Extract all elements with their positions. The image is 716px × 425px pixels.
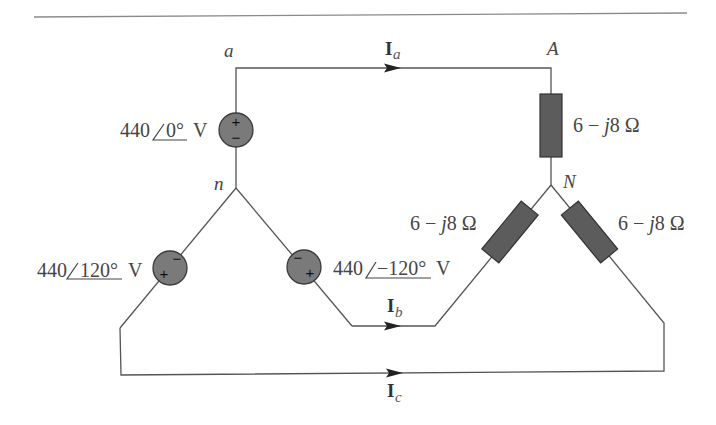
load-A-impedance-label: 6−j8Ω xyxy=(573,114,640,137)
line-a-wire xyxy=(236,68,551,188)
source-c-magnitude: 440 xyxy=(37,259,67,281)
source-c-unit: V xyxy=(128,259,143,281)
source-c-plus: + xyxy=(160,265,169,282)
voltage-source-b-icon xyxy=(287,250,321,284)
current-a-symbol: I xyxy=(385,38,392,59)
current-a-subscript: a xyxy=(393,46,401,62)
current-a-label: I a xyxy=(385,38,401,62)
source-a-label: 440 0° V xyxy=(120,119,208,141)
source-c-minus: − xyxy=(173,250,182,267)
source-c: − + xyxy=(153,250,187,285)
node-label-A: A xyxy=(545,38,559,59)
voltage-source-c-icon xyxy=(153,251,187,285)
node-label-a: a xyxy=(224,40,234,61)
source-a: + − xyxy=(219,113,253,147)
source-a-angle: 0° xyxy=(166,119,184,141)
current-c-symbol: I xyxy=(387,380,394,401)
current-b-symbol: I xyxy=(387,295,394,316)
source-a-plus: + xyxy=(232,113,241,130)
source-b-unit: V xyxy=(436,257,451,279)
current-b-subscript: b xyxy=(395,304,403,320)
source-a-minus: − xyxy=(232,129,241,146)
load-impedance-B-icon xyxy=(482,201,538,263)
source-b-label: 440 −120° V xyxy=(333,257,451,279)
source-b-plus: + xyxy=(306,264,315,281)
node-label-N: N xyxy=(562,171,577,192)
source-b-magnitude: 440 xyxy=(333,257,363,279)
source-c-angle: 120° xyxy=(80,259,118,281)
current-c-label: I c xyxy=(387,380,402,405)
source-c-label: 440 120° V xyxy=(37,259,143,281)
load-B-impedance-label: 6−j8Ω xyxy=(410,212,477,235)
load-impedance-C-icon xyxy=(561,201,617,263)
load-impedance-A-icon xyxy=(540,94,562,157)
source-a-magnitude: 440 xyxy=(120,119,150,141)
load-C xyxy=(561,201,617,263)
source-b-angle: −120° xyxy=(377,257,426,279)
top-rule xyxy=(34,13,687,17)
current-c-subscript: c xyxy=(395,389,402,405)
three-phase-wye-wye-circuit: + − − + − + a A n N 440 0° V 440 120° V … xyxy=(0,0,716,425)
source-b: − + xyxy=(287,249,321,284)
source-b-minus: − xyxy=(294,249,303,266)
node-label-n: n xyxy=(214,173,224,194)
current-b-label: I b xyxy=(387,295,403,320)
source-a-unit: V xyxy=(193,119,208,141)
load-C-impedance-label: 6−j8Ω xyxy=(618,212,685,235)
load-B xyxy=(482,201,538,263)
